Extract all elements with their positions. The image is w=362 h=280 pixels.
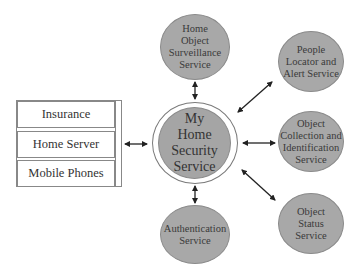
node-my-home-security-service: My Home Security Service	[158, 107, 231, 179]
arrow-object-status-center	[242, 170, 275, 200]
node-object-status-service: Object Status Service	[278, 193, 344, 254]
stack-row-label: Home Server	[33, 137, 99, 152]
arrow-people-locator-center	[238, 82, 272, 112]
node-authentication-service: Authentication Service	[160, 205, 230, 264]
architecture-diagram: Insurance Home Server Mobile Phones My H…	[0, 0, 362, 280]
node-label: Home Object Surveillance Service	[169, 23, 221, 71]
node-people-locator-service: People Locator and Alert Service	[278, 31, 344, 92]
node-label: Authentication Service	[164, 223, 226, 247]
node-object-collection-service: Object Collection and Identification Ser…	[278, 111, 344, 172]
stack-row-home-server: Home Server	[17, 131, 115, 158]
stack-row-mobile-phones: Mobile Phones	[17, 160, 115, 187]
node-home-object-surveillance-service: Home Object Surveillance Service	[160, 14, 230, 80]
stack-side-strip	[115, 101, 121, 186]
node-label: Object Collection and Identification Ser…	[280, 118, 342, 166]
stack-row-insurance: Insurance	[17, 101, 115, 128]
node-label: Object Status Service	[295, 206, 327, 242]
node-label: My Home Security Service	[171, 111, 218, 175]
stack-row-label: Mobile Phones	[28, 166, 103, 181]
client-stack: Insurance Home Server Mobile Phones	[16, 100, 122, 187]
stack-row-label: Insurance	[42, 107, 91, 122]
node-label: People Locator and Alert Service	[283, 44, 339, 80]
